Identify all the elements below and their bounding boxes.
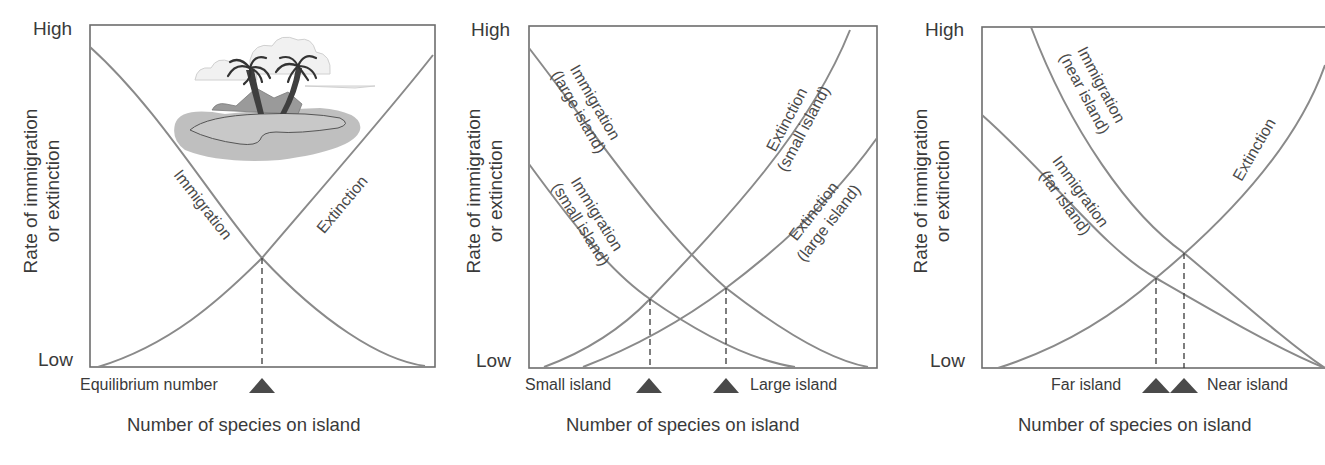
x-axis-title: Number of species on island <box>127 414 360 436</box>
panel-island-size: High Low Rate of immigration or extincti… <box>450 0 890 465</box>
small-island-label: Small island <box>525 376 611 394</box>
island-illustration <box>174 37 375 161</box>
panel-equilibrium-model: High Low Rate of immigration or extincti… <box>0 0 450 465</box>
far-island-marker-icon <box>1142 378 1170 393</box>
large-island-marker-icon <box>713 378 739 393</box>
far-island-label: Far island <box>1051 376 1121 394</box>
large-island-label: Large island <box>750 376 837 394</box>
small-island-marker-icon <box>636 378 662 393</box>
x-axis-title: Number of species on island <box>566 414 799 436</box>
x-axis-title: Number of species on island <box>1018 414 1251 436</box>
chart-frame <box>982 27 1325 368</box>
panel-island-distance: High Low Rate of immigration or extincti… <box>890 0 1325 465</box>
equilibrium-marker-icon <box>249 378 275 393</box>
equilibrium-number-label: Equilibrium number <box>80 376 218 394</box>
chart-frame <box>90 25 435 367</box>
near-island-label: Near island <box>1207 376 1288 394</box>
near-island-marker-icon <box>1170 378 1198 393</box>
